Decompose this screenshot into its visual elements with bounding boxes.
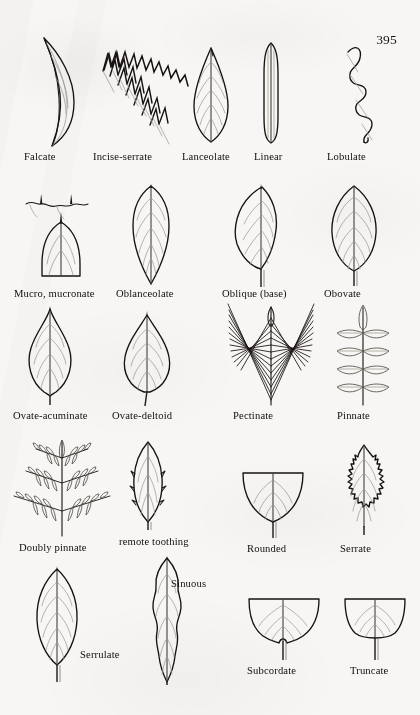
caption-lobulate: Lobulate	[327, 151, 366, 162]
caption-ovate-deltoid: Ovate-deltoid	[112, 410, 172, 421]
caption-oblanceolate: Oblanceolate	[116, 288, 174, 299]
scanned-page: 395 Falcate	[0, 0, 420, 715]
caption-falcate: Falcate	[24, 151, 56, 162]
figure-rounded	[240, 470, 306, 540]
figure-truncate	[342, 596, 408, 662]
figure-obovate	[325, 183, 383, 288]
caption-serrulate: Serrulate	[80, 649, 120, 660]
caption-subcordate: Subcordate	[247, 665, 296, 676]
figure-ovate-acuminate	[22, 306, 80, 406]
caption-ovate-acuminate: Ovate-acuminate	[13, 410, 88, 421]
caption-remote-toothing: remote toothing	[119, 536, 189, 547]
figure-linear	[258, 40, 284, 145]
caption-obovate: Obovate	[324, 288, 361, 299]
caption-doubly-pinnate: Doubly pinnate	[19, 542, 87, 553]
figure-sinuous	[141, 556, 193, 686]
figure-serrulate	[27, 566, 87, 684]
caption-linear: Linear	[254, 151, 283, 162]
figure-remote-toothing	[126, 440, 170, 532]
figure-pinnate	[332, 303, 394, 407]
caption-truncate: Truncate	[350, 665, 388, 676]
figure-ovate-deltoid	[118, 311, 176, 407]
figure-oblique-base	[228, 184, 288, 289]
caption-pectinate: Pectinate	[233, 410, 273, 421]
caption-sinuous: Sinuous	[171, 578, 206, 589]
figure-pectinate	[228, 302, 314, 408]
caption-pinnate: Pinnate	[337, 410, 370, 421]
caption-incise-serrate: Incise-serrate	[93, 151, 152, 162]
figure-lanceolate	[186, 46, 236, 144]
figure-lobulate	[332, 42, 394, 146]
figure-doubly-pinnate	[6, 438, 118, 538]
caption-lanceolate: Lanceolate	[182, 151, 230, 162]
caption-serrate: Serrate	[340, 543, 371, 554]
caption-oblique-base: Oblique (base)	[222, 288, 287, 299]
figure-subcordate	[246, 596, 322, 662]
figure-incise-serrate	[98, 48, 182, 152]
figure-oblanceolate	[124, 184, 178, 286]
figure-falcate	[30, 32, 92, 150]
figure-serrate	[336, 443, 392, 537]
caption-mucro-mucronate: Mucro, mucronate	[14, 288, 95, 299]
figure-mucro-mucronate	[24, 192, 98, 288]
caption-rounded: Rounded	[247, 543, 286, 554]
